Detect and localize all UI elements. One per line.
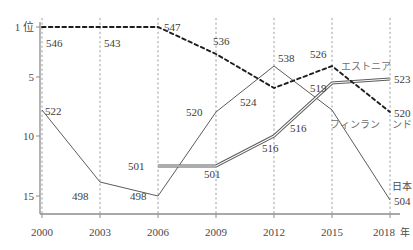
value-label-japan-2000: 522 (45, 105, 62, 117)
value-label-finland-2003: 543 (104, 37, 121, 49)
value-label-finland-2000: 546 (46, 37, 63, 49)
y-tick-label-5: 5 (29, 71, 35, 83)
value-label-finland-2018: 520 (394, 107, 411, 119)
value-label-finland-2012: 524 (240, 96, 257, 108)
x-axis-unit-label: 年 (400, 226, 410, 238)
x-tick-label-2006: 2006 (147, 226, 170, 238)
x-tick-label-2015: 2015 (321, 226, 344, 238)
series-label-estonia: エストニア (341, 61, 391, 72)
value-label-finland-2006: 547 (164, 21, 181, 33)
x-tick-label-2009: 2009 (205, 226, 228, 238)
y-tick-label-1: 1 位 (15, 20, 34, 33)
value-label-finland-2015: 526 (310, 48, 327, 60)
x-tick-label-2018: 2018 (373, 226, 396, 238)
x-axis-tick-labels: 2000 2003 2006 2009 2012 2015 2018 年 (31, 226, 410, 238)
y-tick-label-15: 15 (23, 190, 35, 202)
chart-canvas: 1 位 5 10 15 2000 2003 2006 2009 2012 201… (0, 0, 413, 250)
gridlines (42, 18, 390, 215)
x-tick-label-2000: 2000 (31, 226, 54, 238)
rank-line-chart: 1 位 5 10 15 2000 2003 2006 2009 2012 201… (0, 0, 413, 250)
series-label-finland: フィンラン (330, 119, 380, 130)
value-label-japan-2015: 516 (290, 122, 307, 134)
value-label-japan-2009: 520 (186, 106, 203, 118)
value-label-japan-2006: 498 (130, 190, 147, 202)
series-label-finland-tail: ンド (392, 119, 412, 130)
value-label-japan-2012: 538 (278, 52, 295, 64)
value-label-japan-2018: 504 (394, 195, 411, 207)
value-label-estonia-2009: 501 (204, 168, 221, 180)
y-axis-tick-labels: 1 位 5 10 15 (15, 20, 35, 202)
y-tick-label-10: 10 (23, 130, 35, 142)
value-label-japan-2003: 498 (72, 190, 89, 202)
value-label-estonia-2018: 523 (394, 73, 411, 85)
x-tick-label-2012: 2012 (263, 226, 285, 238)
series-label-japan: 日本 (392, 180, 412, 192)
value-label-estonia-2012: 516 (262, 142, 279, 154)
x-tick-label-2003: 2003 (89, 226, 112, 238)
value-label-estonia-2006: 501 (128, 160, 145, 172)
value-label-estonia-2015: 519 (310, 82, 327, 94)
value-label-finland-2009: 536 (213, 35, 230, 47)
